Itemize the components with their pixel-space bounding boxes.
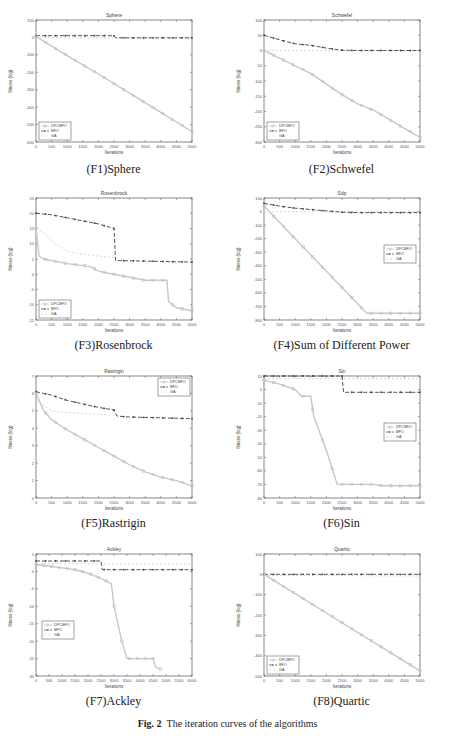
figure-caption-text: The iteration curves of the algorithms xyxy=(167,718,318,729)
chart-title: Schwefel xyxy=(332,12,352,18)
x-axis-label: Iterations xyxy=(105,328,124,333)
y-tick-label: 0 xyxy=(32,272,35,277)
y-tick-label: 0 xyxy=(260,209,263,214)
legend-label: DPCBFO xyxy=(54,623,70,627)
legend-label: DPCBFO xyxy=(170,380,186,384)
legend-label: BFO xyxy=(51,307,59,311)
y-tick-label: 7 xyxy=(32,374,35,379)
y-tick-label: 2 xyxy=(32,461,35,466)
x-tick-label: 1000 xyxy=(291,500,301,505)
legend: DPCBFOBFOGA xyxy=(42,621,74,639)
x-tick-label: 500 xyxy=(48,144,55,149)
y-tick-label: -800 xyxy=(254,318,263,323)
y-tick-label: 5 xyxy=(32,257,35,262)
x-tick-label: 500 xyxy=(48,500,55,505)
x-tick-label: 0 xyxy=(263,322,266,327)
y-tick-label: -70 xyxy=(256,482,263,487)
y-axis-label: fitness (log) xyxy=(236,69,241,93)
chart-f5: Rastrigin0500100015002000250030003500400… xyxy=(0,356,227,516)
x-axis-label: Iterations xyxy=(105,150,124,155)
plot-area xyxy=(36,554,192,676)
legend-label: GA xyxy=(51,134,57,138)
y-tick-label: -700 xyxy=(254,304,263,309)
y-tick-label: -500 xyxy=(254,277,263,282)
legend-label: DPCBFO xyxy=(51,302,67,306)
y-tick-label: -5 xyxy=(30,586,34,591)
x-tick-label: 5000 xyxy=(416,322,426,327)
x-tick-label: 0 xyxy=(263,144,266,149)
y-tick-label: -300 xyxy=(26,87,35,92)
y-tick-label: -100 xyxy=(254,223,263,228)
legend: DPCBFOBFOGA xyxy=(267,656,299,674)
x-tick-label: 5000 xyxy=(416,500,426,505)
x-tick-label: 500 xyxy=(276,322,283,327)
y-tick-label: -400 xyxy=(254,263,263,268)
y-axis-label: fitness (log) xyxy=(236,425,241,449)
legend-label: DPCBFO xyxy=(396,425,412,429)
y-tick-label: -600 xyxy=(26,140,35,145)
legend-label: GA xyxy=(279,134,285,138)
x-tick-label: 1000 xyxy=(291,678,301,683)
x-tick-label: 2500 xyxy=(97,678,107,683)
x-tick-label: 500 xyxy=(276,678,283,683)
x-tick-label: 0 xyxy=(35,322,38,327)
x-tick-label: 0 xyxy=(35,144,38,149)
legend-label: GA xyxy=(279,668,285,672)
x-tick-label: 4000 xyxy=(136,678,146,683)
x-tick-label: 3500 xyxy=(369,322,379,327)
y-tick-label: -25 xyxy=(28,656,35,661)
y-tick-label: -10 xyxy=(256,401,263,406)
x-tick-label: 2000 xyxy=(322,322,332,327)
x-tick-label: 3000 xyxy=(110,678,120,683)
y-tick-label: 0 xyxy=(260,387,263,392)
y-tick-label: -300 xyxy=(254,250,263,255)
x-tick-label: 6000 xyxy=(188,678,198,683)
chart-f6: Sin0500100015002000250030003500400045005… xyxy=(228,356,455,516)
x-tick-label: 3000 xyxy=(125,322,135,327)
y-tick-label: -10 xyxy=(28,302,35,307)
chart-panel-f2: Schwefel05001000150020002500300035004000… xyxy=(228,0,455,176)
x-tick-label: 0 xyxy=(263,500,266,505)
y-tick-label: -150 xyxy=(254,94,263,99)
x-tick-label: 0 xyxy=(35,678,38,683)
x-tick-label: 5000 xyxy=(416,144,426,149)
x-tick-label: 4000 xyxy=(384,678,394,683)
y-tick-label: 10 xyxy=(258,374,263,379)
y-tick-label: 15 xyxy=(30,226,35,231)
y-tick-label: -250 xyxy=(254,124,263,129)
legend: DPCBFOBFOGA xyxy=(267,122,299,140)
y-tick-label: 1 xyxy=(32,478,35,483)
x-tick-label: 1000 xyxy=(63,500,73,505)
chart-title: Rastrigin xyxy=(104,368,124,374)
y-tick-label: -30 xyxy=(28,674,35,679)
x-tick-label: 2500 xyxy=(338,322,348,327)
x-tick-label: 3500 xyxy=(141,144,151,149)
x-tick-label: 4000 xyxy=(384,500,394,505)
y-tick-label: 100 xyxy=(255,552,262,557)
x-tick-label: 500 xyxy=(46,678,53,683)
y-tick-label: -50 xyxy=(256,455,263,460)
x-tick-label: 5000 xyxy=(188,144,198,149)
x-tick-label: 2500 xyxy=(338,500,348,505)
y-tick-label: 100 xyxy=(255,196,262,201)
y-tick-label: -400 xyxy=(26,105,35,110)
legend-label: BFO xyxy=(170,385,178,389)
x-tick-label: 4000 xyxy=(156,500,166,505)
x-tick-label: 4500 xyxy=(400,678,410,683)
x-tick-label: 1000 xyxy=(291,144,301,149)
legend-label: BFO xyxy=(54,628,62,632)
y-axis-label: fitness (log) xyxy=(236,603,241,627)
y-tick-label: -60 xyxy=(256,468,263,473)
x-tick-label: 1500 xyxy=(78,322,88,327)
y-tick-label: -10 xyxy=(28,604,35,609)
x-tick-label: 500 xyxy=(276,144,283,149)
chart-title: Sin xyxy=(338,368,345,374)
y-tick-label: -50 xyxy=(256,63,263,68)
chart-f1: Sphere0500100015002000250030003500400045… xyxy=(0,0,227,160)
chart-panel-f8: Quartic050010001500200025003000350040004… xyxy=(228,534,455,710)
y-axis-label: fitness (log) xyxy=(8,425,13,449)
x-tick-label: 1000 xyxy=(63,322,73,327)
y-tick-label: 0 xyxy=(260,572,263,577)
x-tick-label: 1000 xyxy=(63,144,73,149)
chart-title: Ackley xyxy=(107,546,122,552)
